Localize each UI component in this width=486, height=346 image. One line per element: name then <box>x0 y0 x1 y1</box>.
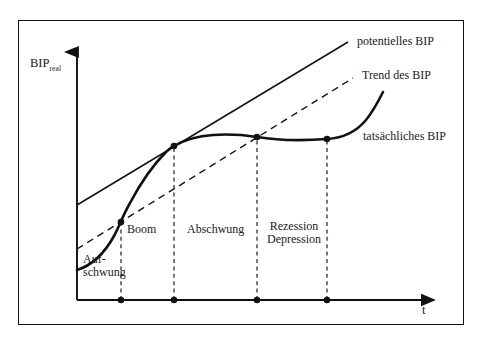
business-cycle-diagram: BIPreal t potentielles BIP Trend des BIP… <box>0 0 486 346</box>
phase-label-aufschwung-line2: schwung <box>83 265 126 279</box>
phase-label-rezession-depression: RezessionDepression <box>267 220 321 247</box>
y-axis-label-subscript: real <box>49 64 61 73</box>
actual-gdp-label: tatsächliches BIP <box>363 130 446 143</box>
phase-label-rezession-line2: Depression <box>267 232 321 246</box>
y-axis-label: BIPreal <box>30 56 61 73</box>
phase-label-aufschwung: Auf-schwung <box>83 253 126 280</box>
x-axis-label: t <box>422 303 425 317</box>
phase-label-aufschwung-line1: Auf- <box>83 252 106 266</box>
y-axis-label-main: BIP <box>30 56 49 70</box>
phase-label-abschwung: Abschwung <box>187 223 244 236</box>
phase-label-rezession-line1: Rezession <box>270 219 319 233</box>
potential-gdp-label: potentielles BIP <box>357 35 434 48</box>
trend-gdp-label: Trend des BIP <box>362 69 431 82</box>
phase-label-boom: Boom <box>127 223 156 236</box>
